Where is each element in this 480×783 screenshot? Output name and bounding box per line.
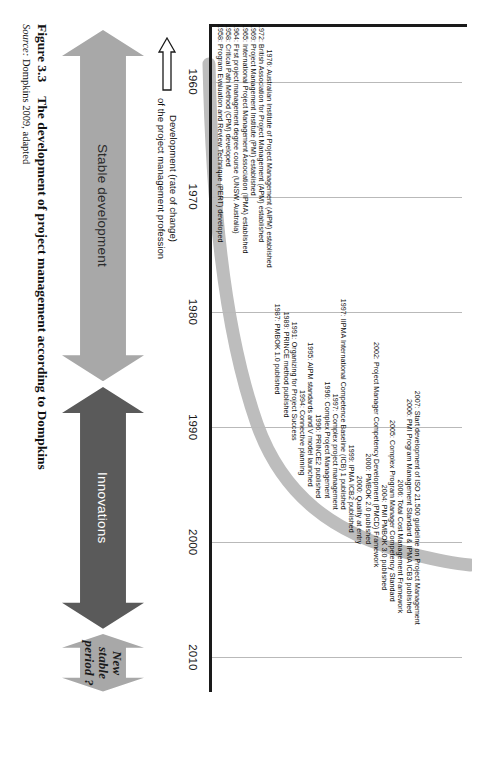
event-label: 1958: Program Evaluation and Review Tech… [216, 24, 224, 61]
event-label: 1958: Critical Path Method (CPM) develop… [224, 24, 232, 61]
period-arrow: New stable period ? [62, 634, 144, 692]
y-axis-label-line2: of the project management profession [156, 98, 168, 259]
gridline-2000 [212, 542, 462, 543]
event-label: 1996: Complex Project Management [323, 24, 331, 498]
event-label: 1995: AIPM standards and V model launche… [306, 24, 314, 487]
period-arrow: Innovations [62, 387, 144, 629]
caption-number: Figure 3.3 [35, 24, 50, 82]
year-label-1960: 1960 [187, 68, 199, 94]
event-label: 1964: First project management degree co… [232, 24, 240, 130]
timeline-figure: 196019701980199020002010 1958: Program E… [154, 24, 472, 696]
event-label: 1989: PRINCE method published [282, 24, 290, 418]
double-arrow-icon [62, 634, 144, 692]
event-label: 2007: Start development of ISO 21.500 gu… [413, 24, 421, 625]
event-label: 1999: IPMA ICB2 published [347, 24, 355, 533]
event-label: 1994: Connective planning [298, 24, 306, 475]
year-label-2000: 2000 [187, 529, 199, 555]
year-label-1970: 1970 [187, 184, 199, 210]
event-label: 2006: PMI Program Management Standard & … [405, 24, 413, 613]
event-label: 2005: Complex Program Manager Competency… [388, 24, 396, 602]
event-label: 2004: PMI PMBOK 3.0 published [380, 24, 388, 590]
year-label-2010: 2010 [187, 644, 199, 670]
event-label: 1991: Organizing for Project Success [290, 24, 298, 441]
year-label-1990: 1990 [187, 414, 199, 440]
caption-title: The development of project management ac… [35, 96, 50, 470]
event-label: 2006: Total Cost Management Framework [396, 24, 404, 613]
event-label: 2000: Quality at entry [355, 24, 363, 544]
event-label: 1997: Complex project management [331, 24, 339, 510]
figure-page: 196019701980199020002010 1958: Program E… [0, 0, 480, 783]
event-label: 2002: Project Manager Competency Develop… [372, 24, 380, 567]
period-arrow: Stable development [62, 30, 144, 381]
y-axis-label-line1: Development (rate of change) [168, 98, 180, 259]
period-bands: Stable developmentInnovationsNew stable … [54, 24, 150, 696]
event-label: 1987: PMBOK 1.0 published [273, 24, 281, 395]
event-label: 1996: PRINCE2 published [314, 24, 322, 498]
figure-caption: Figure 3.3The development of project man… [21, 24, 50, 724]
double-arrow-icon [62, 30, 144, 381]
event-label: 2000: PMBOK 2.0 published [364, 24, 372, 544]
event-label: 1965: International Project Management A… [241, 24, 249, 141]
x-axis-line [209, 24, 212, 692]
double-arrow-icon [62, 387, 144, 629]
event-label: 1972: British Association for Project Ma… [257, 24, 265, 222]
event-label: 1969: Project Management Institute (PMI)… [249, 24, 257, 187]
left-arrow-icon [157, 36, 179, 92]
y-axis-label: Development (rate of change) of the proj… [156, 36, 179, 259]
event-label: 1997: IIPMA International Competence Bas… [339, 24, 347, 510]
gridline-2010 [212, 657, 462, 658]
source-text: Dompkins 2009, adapted [21, 59, 32, 164]
year-label-1980: 1980 [187, 299, 199, 325]
event-label: 1976: Australian Institute of Project Ma… [265, 24, 273, 268]
source-label: Source: [21, 24, 32, 56]
